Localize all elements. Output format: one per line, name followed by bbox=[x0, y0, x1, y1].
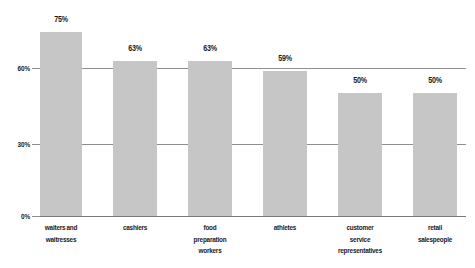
bar-value-athletes: 59% bbox=[266, 53, 305, 63]
category-label-food-preparation-workers: food preparation workers bbox=[183, 222, 237, 257]
bar-value-food-preparation-workers: 63% bbox=[191, 43, 230, 53]
y-tick-mark-30 bbox=[32, 144, 40, 145]
y-tick-label-30: 30% bbox=[4, 140, 30, 149]
category-label-line: customer bbox=[331, 222, 388, 234]
y-tick-label-60: 60% bbox=[4, 64, 30, 73]
category-label-line: retail bbox=[408, 222, 462, 234]
category-label-line: waiters and bbox=[34, 222, 88, 234]
category-label-customer-service-representatives: customer service representatives bbox=[331, 222, 388, 257]
category-label-line: preparation bbox=[183, 234, 237, 246]
category-label-line: cashiers bbox=[108, 222, 162, 234]
bar-value-cashiers: 63% bbox=[116, 43, 155, 53]
bar-cashiers[interactable] bbox=[113, 61, 157, 216]
category-label-line: food bbox=[183, 222, 237, 234]
category-label-cashiers: cashiers bbox=[108, 222, 162, 234]
y-tick-mark-60 bbox=[32, 68, 40, 69]
category-label-waiters-and-waitresses: waiters and waitresses bbox=[34, 222, 88, 245]
gridline-60 bbox=[40, 68, 466, 69]
bar-value-retail-salespeople: 50% bbox=[416, 75, 455, 85]
bar-chart: 60% 30% 0% 75% waiters and waitresses 63… bbox=[0, 0, 475, 268]
category-label-athletes: athletes bbox=[258, 222, 312, 234]
category-label-line: salespeople bbox=[408, 234, 462, 246]
category-label-retail-salespeople: retail salespeople bbox=[408, 222, 462, 245]
bar-retail-salespeople[interactable] bbox=[413, 93, 457, 216]
category-label-line: representatives bbox=[331, 245, 388, 257]
bar-customer-service-representatives[interactable] bbox=[338, 93, 382, 216]
category-label-line: workers bbox=[183, 245, 237, 257]
bar-value-customer-service-representatives: 50% bbox=[341, 75, 380, 85]
bar-food-preparation-workers[interactable] bbox=[188, 61, 232, 216]
y-tick-label-0: 0% bbox=[4, 212, 30, 221]
plot-area: 60% 30% 0% 75% waiters and waitresses 63… bbox=[0, 0, 475, 268]
category-label-line: waitresses bbox=[34, 234, 88, 246]
bar-value-waiters-and-waitresses: 75% bbox=[42, 14, 81, 24]
y-tick-mark-0 bbox=[32, 216, 40, 217]
category-label-line: athletes bbox=[258, 222, 312, 234]
bar-waiters-and-waitresses[interactable] bbox=[40, 32, 82, 216]
category-label-line: service bbox=[331, 234, 388, 246]
axis-baseline-0 bbox=[40, 216, 466, 217]
gridline-30 bbox=[40, 144, 466, 145]
bar-athletes[interactable] bbox=[263, 71, 307, 216]
